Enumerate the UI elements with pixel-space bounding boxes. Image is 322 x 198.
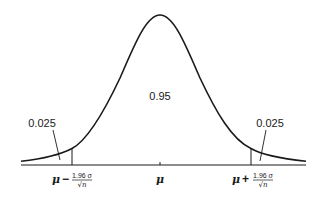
mean-label: μ	[156, 173, 164, 186]
center-area-label: 0.95	[149, 90, 170, 102]
right-tail-pointer	[260, 130, 266, 161]
svg-text:+: +	[242, 172, 249, 186]
svg-text:1.96 σ: 1.96 σ	[72, 172, 93, 179]
svg-text:√n: √n	[259, 181, 268, 189]
svg-text:μ: μ	[52, 173, 60, 186]
svg-text:1.96 σ: 1.96 σ	[253, 172, 274, 179]
left-critical-value-label: μ − 1.96 σ √n	[52, 172, 93, 189]
svg-text:μ: μ	[232, 173, 240, 186]
svg-text:√n: √n	[78, 181, 87, 189]
left-tail-label: 0.025	[28, 117, 56, 129]
svg-text:−: −	[62, 172, 69, 186]
right-tail-label: 0.025	[256, 117, 284, 129]
right-critical-value-label: μ + 1.96 σ √n	[232, 172, 274, 189]
normal-distribution-diagram: 0.95 0.025 0.025 μ − 1.96 σ √n μ μ + 1.9…	[0, 0, 322, 198]
bell-curve	[21, 15, 306, 161]
